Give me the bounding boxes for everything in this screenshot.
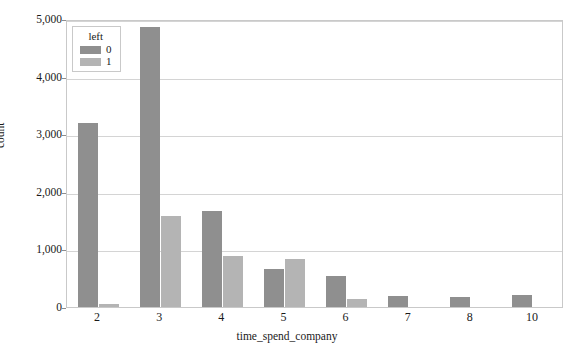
y-tick-label: 1,000 [36, 244, 62, 256]
x-tick-label: 10 [512, 311, 552, 323]
bar [450, 297, 470, 307]
legend: left 01 [72, 26, 121, 72]
y-tick-mark [62, 308, 66, 309]
bar [99, 304, 119, 307]
bar [78, 123, 98, 307]
bar [140, 27, 160, 307]
legend-entries: 01 [80, 44, 112, 67]
legend-entry: 1 [80, 56, 112, 67]
bar [223, 256, 243, 307]
bar-chart: count 01,0002,0003,0004,0005,000 2345678… [0, 0, 574, 353]
y-axis-title: count [0, 122, 6, 148]
bar [161, 216, 181, 307]
gridline [67, 21, 562, 22]
legend-entry: 0 [80, 44, 112, 55]
bar [285, 259, 305, 307]
legend-swatch [80, 58, 101, 66]
y-tick-label: 4,000 [36, 72, 62, 84]
x-tick-label: 5 [263, 311, 303, 323]
bar [512, 295, 532, 307]
x-tick-label: 8 [450, 311, 490, 323]
plot-area [66, 20, 563, 308]
y-tick-label: 3,000 [36, 129, 62, 141]
bar [347, 299, 367, 307]
legend-label: 0 [106, 44, 112, 55]
legend-title: left [80, 30, 112, 42]
bar [326, 276, 346, 307]
y-tick-label: 5,000 [36, 14, 62, 26]
x-tick-label: 7 [388, 311, 428, 323]
bar [388, 296, 408, 307]
x-tick-label: 4 [201, 311, 241, 323]
legend-label: 1 [106, 56, 112, 67]
bar [202, 211, 222, 307]
x-axis-title: time_spend_company [0, 330, 574, 342]
x-tick-label: 6 [326, 311, 366, 323]
bar [264, 269, 284, 307]
legend-swatch [80, 46, 101, 54]
x-tick-label: 2 [77, 311, 117, 323]
x-tick-label: 3 [139, 311, 179, 323]
y-tick-label: 2,000 [36, 187, 62, 199]
